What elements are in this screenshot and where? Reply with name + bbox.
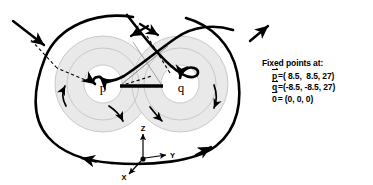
legend-equals-p: =( xyxy=(278,71,286,83)
legend-value-origin: 0, 0, 0) xyxy=(288,94,314,106)
legend-equals-q: =( xyxy=(278,82,286,94)
legend-value-p: 8.5, 8.5, 27) xyxy=(286,71,335,83)
legend-row-q: q=(-8.5, -8.5, 27) xyxy=(272,82,373,94)
axis-label-x: X xyxy=(121,173,126,182)
fixed-points-legend: Fixed points at: p=( 8.5, 8.5, 27) q=(-8… xyxy=(262,58,373,105)
outflow-arrow-upper-right xyxy=(250,26,268,41)
fixed-point-label-q: q xyxy=(178,80,185,95)
axis-label-y: Y xyxy=(170,151,175,160)
legend-row-p: p=( 8.5, 8.5, 27) xyxy=(272,71,373,83)
vector-symbol-origin: 0 xyxy=(272,94,278,106)
legend-symbol-origin: 0 xyxy=(272,94,277,104)
legend-value-q: -8.5, -8.5, 27) xyxy=(286,82,336,94)
coordinate-axis-triad: Z Y X xyxy=(121,124,175,182)
outer-loop-arrowheads xyxy=(82,147,211,162)
axis-origin-dot xyxy=(140,156,145,161)
fixed-point-label-p: p xyxy=(100,80,107,95)
inflow-arrow-upper-left xyxy=(13,21,44,45)
outer-arrow-bottom-left xyxy=(82,158,96,161)
basin-disks xyxy=(55,36,228,132)
legend-equals-origin: = ( xyxy=(278,94,288,106)
legend-title: Fixed points at: xyxy=(262,58,373,70)
axis-label-z: Z xyxy=(141,124,146,133)
axis-y xyxy=(145,155,166,158)
legend-row-origin: 0= (0, 0, 0) xyxy=(272,94,373,106)
